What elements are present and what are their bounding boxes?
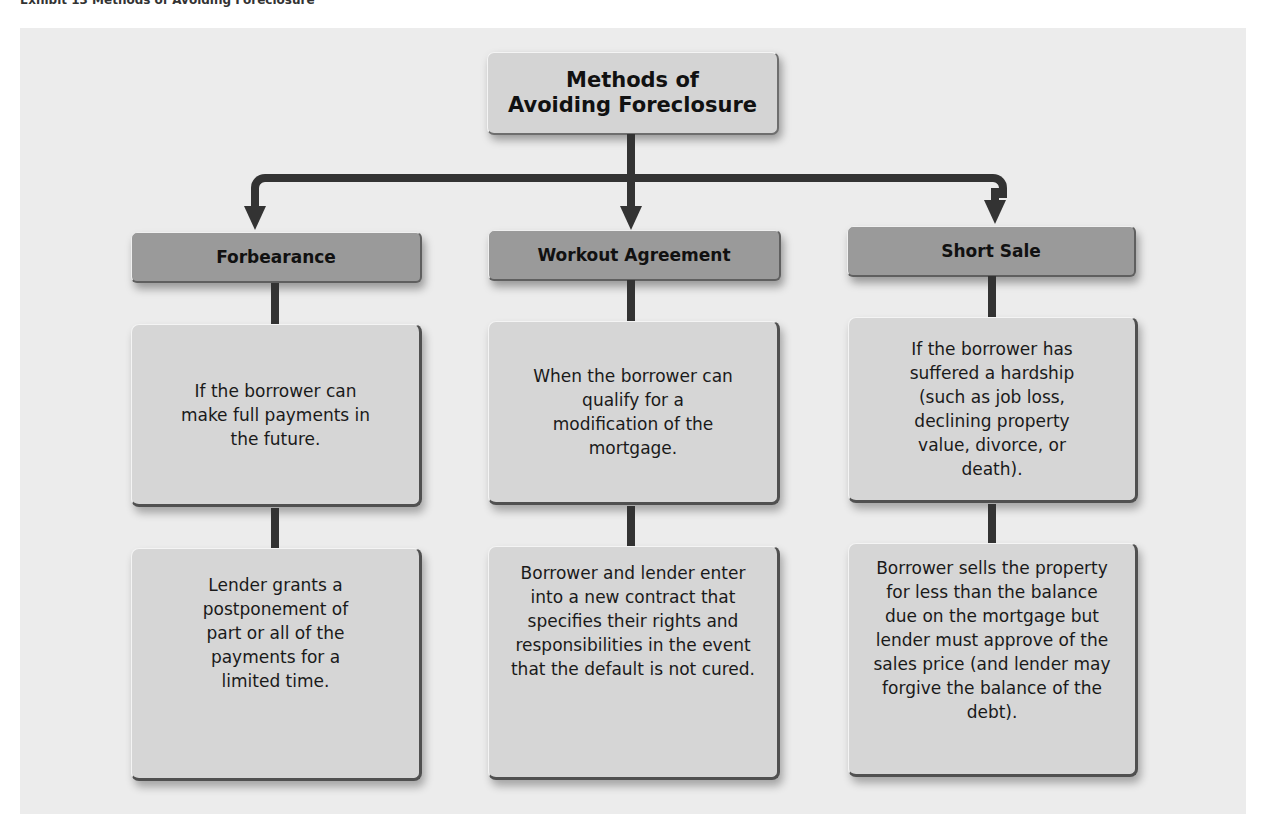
- connector-shortsale-1: [988, 276, 996, 318]
- branch-label: Forbearance: [216, 247, 336, 267]
- branch-condition-short-sale: If the borrower has suffered a hardship …: [848, 317, 1138, 503]
- branch-header-short-sale: Short Sale: [847, 226, 1136, 277]
- action-text: Borrower sells the property for less tha…: [870, 556, 1115, 724]
- arrow-down-icon: [984, 200, 1006, 224]
- exhibit-caption: Exhibit 13 Methods of Avoiding Foreclosu…: [20, 0, 620, 6]
- diagram-title-box: Methods of Avoiding Foreclosure: [487, 52, 779, 135]
- connector-forbearance-1: [271, 283, 279, 325]
- branch-label: Workout Agreement: [537, 245, 730, 265]
- branch-action-workout-agreement: Borrower and lender enter into a new con…: [488, 546, 780, 780]
- condition-text: If the borrower can make full payments i…: [176, 379, 376, 451]
- diagram-title-line-2: Avoiding Foreclosure: [508, 93, 757, 118]
- action-text: Lender grants a postponement of part or …: [188, 573, 363, 693]
- condition-text: If the borrower has suffered a hardship …: [892, 337, 1092, 481]
- diagram-title-line-1: Methods of: [508, 68, 757, 93]
- exhibit-caption-strip: Exhibit 13 Methods of Avoiding Foreclosu…: [20, 0, 620, 8]
- branch-condition-forbearance: If the borrower can make full payments i…: [131, 324, 422, 507]
- branch-header-workout-agreement: Workout Agreement: [488, 230, 781, 281]
- connector-shortsale-2: [988, 504, 996, 546]
- connector-left-drop: [251, 188, 259, 208]
- branch-label: Short Sale: [941, 241, 1041, 261]
- diagram-page: Exhibit 13 Methods of Avoiding Foreclosu…: [0, 0, 1269, 819]
- connector-forbearance-2: [271, 508, 279, 550]
- branch-header-forbearance: Forbearance: [131, 232, 422, 283]
- condition-text: When the borrower can qualify for a modi…: [533, 364, 733, 460]
- branch-action-forbearance: Lender grants a postponement of part or …: [131, 548, 422, 781]
- branch-condition-workout-agreement: When the borrower can qualify for a modi…: [488, 321, 780, 505]
- connector-middle-drop: [627, 180, 635, 208]
- connector-workout-1: [627, 280, 635, 322]
- action-text: Borrower and lender enter into a new con…: [503, 561, 763, 681]
- branch-action-short-sale: Borrower sells the property for less tha…: [848, 543, 1138, 777]
- connector-workout-2: [627, 506, 635, 548]
- arrow-down-icon: [620, 206, 642, 230]
- arrow-down-icon: [244, 206, 266, 230]
